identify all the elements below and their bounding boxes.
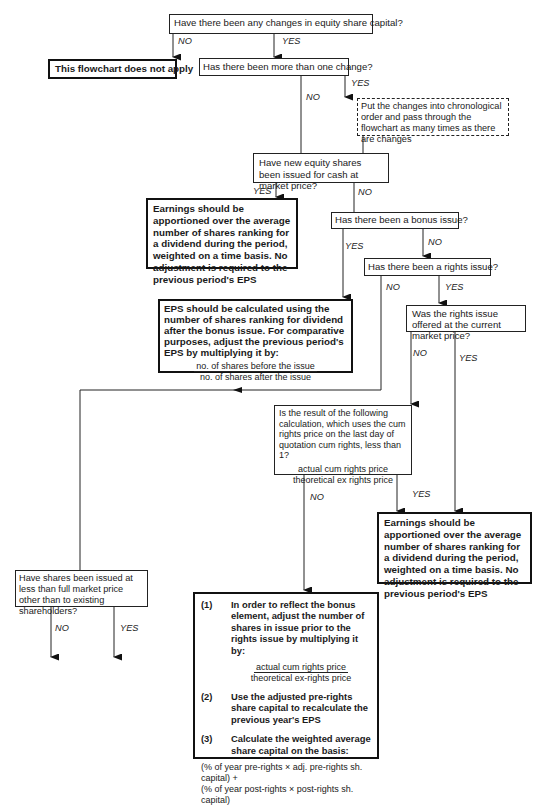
step-text: Use the adjusted pre-rights share capita…	[231, 691, 368, 725]
label-yes: YES	[412, 489, 430, 499]
question-issued-for-cash: Have new equity shares been issued for c…	[253, 153, 389, 183]
step-text: In order to reflect the bonus element, a…	[231, 599, 364, 656]
label-no: NO	[178, 36, 192, 46]
fraction-denominator: theoretical ex rights price	[279, 475, 407, 485]
step-number: (1)	[201, 599, 231, 689]
fraction-cum-ex-rights: actual cum rights price theoretical ex-r…	[231, 662, 371, 683]
weighted-average-formula: (% of year pre-rights × adj. pre-rights …	[201, 762, 371, 806]
question-text: Is the result of the following calculati…	[279, 408, 406, 460]
label-yes: YES	[120, 623, 138, 633]
question-bonus-issue: Has there been a bonus issue?	[331, 212, 459, 229]
fraction-numerator: actual cum rights price	[296, 464, 390, 475]
fraction-denominator: theoretical ex-rights price	[231, 673, 371, 683]
label-no: NO	[358, 187, 372, 197]
terminal-bonus-eps-adjustment: EPS should be calculated using the numbe…	[158, 299, 353, 373]
question-rights-at-market-price: Was the rights issue offered at the curr…	[406, 305, 526, 332]
fraction-numerator: actual cum rights price	[254, 662, 348, 673]
question-text: Has there been a rights issue?	[368, 261, 498, 272]
fraction-numerator: no. of shares before the issue	[194, 361, 317, 372]
fraction-bonus-ratio: no. of shares before the issue no. of sh…	[164, 361, 347, 382]
question-text: Has there been a bonus issue?	[335, 214, 468, 225]
question-rights-issue: Has there been a rights issue?	[364, 258, 491, 276]
label-yes: YES	[459, 353, 477, 363]
formula-line-1: (% of year pre-rights × adj. pre-rights …	[201, 762, 371, 784]
label-no: NO	[413, 348, 427, 358]
step-text: Calculate the weighted average share cap…	[231, 733, 371, 755]
label-yes: YES	[345, 241, 363, 251]
formula-line-2: (% of year post-rights × post-rights sh.…	[201, 784, 371, 806]
question-equity-changes: Have there been any changes in equity sh…	[169, 14, 373, 34]
terminal-text: This flowchart does not apply	[55, 63, 193, 74]
label-yes: YES	[282, 36, 300, 46]
terminal-text: Earnings should be apportioned over the …	[153, 203, 290, 285]
question-more-than-one-change: Has there been more than one change?	[199, 58, 349, 76]
label-yes: YES	[445, 282, 463, 292]
terminal-text: EPS should be calculated using the numbe…	[164, 303, 344, 358]
step-number: (2)	[201, 691, 231, 731]
terminal-text: Earnings should be apportioned over the …	[384, 517, 521, 599]
step-3: Calculate the weighted average share cap…	[231, 733, 371, 756]
fraction-denominator: no. of shares after the issue	[164, 372, 347, 382]
question-text: Have there been any changes in equity sh…	[174, 17, 403, 28]
terminal-rights-adjustment-steps: (1) In order to reflect the bonus elemen…	[193, 592, 379, 759]
terminal-earnings-apportioned-2: Earnings should be apportioned over the …	[377, 512, 532, 584]
label-no: NO	[306, 92, 320, 102]
label-yes: YES	[351, 78, 369, 88]
step-number: (3)	[201, 733, 231, 756]
steps-list: (1) In order to reflect the bonus elemen…	[201, 599, 371, 756]
label-no: NO	[310, 492, 324, 502]
fraction-rights-ratio: actual cum rights price theoretical ex r…	[279, 464, 407, 485]
question-issued-below-market: Have shares been issued at less than ful…	[15, 570, 148, 607]
question-cum-rights-ratio: Is the result of the following calculati…	[274, 405, 412, 475]
label-yes: YES	[253, 186, 271, 196]
question-text: Has there been more than one change?	[203, 61, 373, 72]
note-chronological-order: Put the changes into chronological order…	[357, 98, 509, 136]
label-no: NO	[55, 623, 69, 633]
label-no: NO	[386, 282, 400, 292]
step-2: Use the adjusted pre-rights share capita…	[231, 691, 371, 725]
terminal-earnings-apportioned-1: Earnings should be apportioned over the …	[146, 198, 298, 269]
label-no: NO	[428, 237, 442, 247]
terminal-not-apply: This flowchart does not apply	[48, 59, 177, 79]
step-1: In order to reflect the bonus element, a…	[231, 599, 371, 689]
